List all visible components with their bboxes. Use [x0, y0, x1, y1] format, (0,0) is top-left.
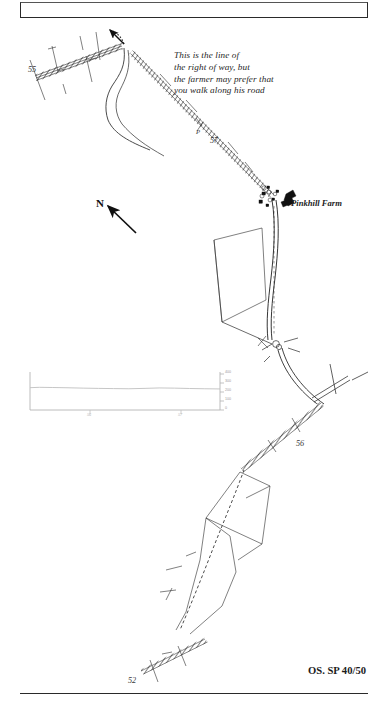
road-south-east — [278, 348, 324, 406]
profile-xtick-57: 57 — [178, 413, 182, 417]
grid-label-56: 56 — [296, 439, 304, 450]
profile-ytick-200: 200 — [225, 389, 231, 393]
lower-field-boundaries — [160, 470, 270, 634]
os-map-reference: OS. SP 40/50 — [308, 664, 366, 678]
elevation-profile-chart: 400 300 200 100 0 56 57 — [18, 368, 236, 420]
field-polygon-mid — [214, 228, 266, 322]
grid-label-57: 57 — [210, 136, 218, 147]
profile-ytick-400: 400 — [225, 371, 231, 375]
map-page: 400 300 200 100 0 56 57 This is the line… — [0, 0, 388, 706]
profile-y-ticks — [220, 374, 224, 410]
elevation-profile-svg — [18, 368, 236, 420]
crossroads-56 — [312, 364, 368, 402]
profile-xtick-56: 56 — [87, 413, 91, 417]
profile-terrain-line — [30, 387, 220, 389]
road-south-from-farm — [267, 200, 278, 340]
profile-x-ticks — [90, 410, 181, 414]
profile-ytick-0: 0 — [225, 407, 227, 411]
grid-label-52: 52 — [128, 676, 136, 687]
road-bottom — [141, 639, 208, 674]
parking-marker-label: P — [196, 128, 200, 136]
map-drawing — [0, 0, 388, 706]
road-southwest — [241, 403, 324, 472]
north-letter-label: N — [96, 196, 104, 210]
right-of-way-footpath — [106, 48, 164, 156]
route-direction-arrow — [110, 30, 124, 44]
north-arrow-icon — [108, 206, 136, 233]
right-of-way-note: This is the line of the right of way, bu… — [174, 50, 274, 97]
profile-ytick-100: 100 — [225, 398, 231, 402]
boundary-ticks-junction — [258, 336, 268, 348]
pinkhill-farm-label: Pinkhill Farm — [291, 198, 342, 209]
profile-ytick-300: 300 — [225, 380, 231, 384]
grid-label-55: 55 — [28, 65, 36, 76]
